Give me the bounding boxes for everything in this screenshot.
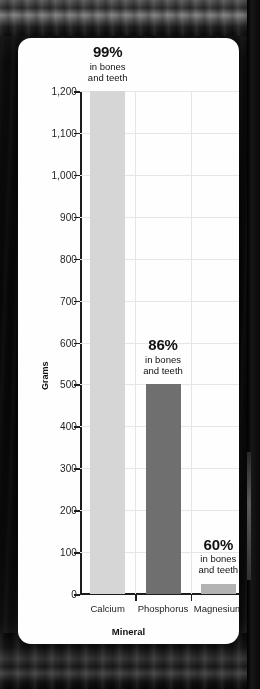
- x-axis-title: Mineral: [18, 626, 239, 637]
- annotation-percent: 86%: [113, 336, 213, 354]
- y-axis-title: Grams: [40, 361, 50, 390]
- annotation-percent: 60%: [168, 536, 239, 554]
- y-axis-tick-label: 200: [60, 505, 77, 516]
- annotation-line-1: in bones: [58, 61, 158, 72]
- annotation-line-1: in bones: [168, 553, 239, 564]
- x-axis-tick: [191, 594, 193, 601]
- bar-magnesium: [201, 584, 236, 594]
- y-axis-tick-label: 500: [60, 379, 77, 390]
- bar-annotation-phosphorus: 86%in bonesand teeth: [113, 336, 213, 376]
- annotation-line-2: and teeth: [113, 365, 213, 376]
- y-axis-tick-label: 1,100: [51, 127, 77, 138]
- annotation-line-1: in bones: [113, 354, 213, 365]
- photo-page-background: Grams 01002003004005006007008009001,0001…: [0, 0, 260, 689]
- background-right-edge: [247, 0, 260, 689]
- y-axis-tick-label: 1,200: [51, 86, 77, 97]
- background-top-band: [0, 0, 260, 36]
- chart-card: Grams 01002003004005006007008009001,0001…: [18, 38, 239, 644]
- x-axis-tick: [135, 594, 137, 601]
- annotation-line-2: and teeth: [168, 564, 239, 575]
- annotation-percent: 99%: [58, 43, 158, 61]
- y-axis-tick-label: 600: [60, 337, 77, 348]
- y-axis-tick-label: 400: [60, 421, 77, 432]
- x-axis-category-label-magnesium: Magnesium: [178, 603, 239, 614]
- annotation-line-2: and teeth: [58, 72, 158, 83]
- y-axis-tick-label: 800: [60, 253, 77, 264]
- y-axis-tick-label: 100: [60, 547, 77, 558]
- bar-annotation-magnesium: 60%in bonesand teeth: [168, 536, 239, 576]
- bar-annotation-calcium: 99%in bonesand teeth: [58, 43, 158, 83]
- y-axis-tick-label: 0: [71, 589, 77, 600]
- y-axis-tick-label: 1,000: [51, 169, 77, 180]
- y-axis-tick-label: 900: [60, 211, 77, 222]
- y-axis-tick-label: 700: [60, 295, 77, 306]
- background-right-edge-highlight: [247, 452, 251, 580]
- y-axis-tick-label: 300: [60, 463, 77, 474]
